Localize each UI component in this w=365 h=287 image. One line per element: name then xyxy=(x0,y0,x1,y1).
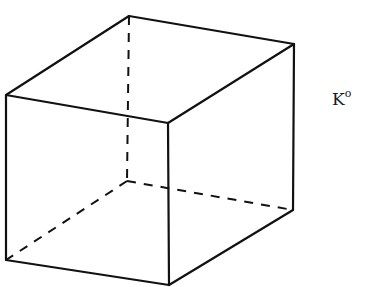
cube-edge xyxy=(6,260,169,285)
cube-edge xyxy=(6,95,168,123)
cube-edge xyxy=(129,16,294,44)
cube-label: Ko xyxy=(332,89,351,108)
visible-edges xyxy=(6,16,294,285)
label-base: K xyxy=(332,89,345,109)
hidden-cube-edge xyxy=(127,16,129,181)
cube-edge xyxy=(168,123,169,285)
hidden-cube-edge xyxy=(127,181,293,210)
cube-diagram xyxy=(0,0,365,287)
hidden-cube-edge xyxy=(6,181,127,260)
cube-edge xyxy=(169,210,293,285)
label-superscript: o xyxy=(345,87,352,100)
hidden-edges xyxy=(6,16,293,260)
cube-edge xyxy=(6,16,129,95)
cube-edge xyxy=(168,44,294,123)
cube-edge xyxy=(293,44,294,210)
